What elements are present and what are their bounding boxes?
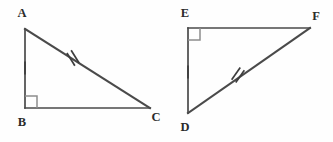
vertex-label-d: D: [180, 120, 189, 134]
vertex-label-b: B: [18, 115, 26, 129]
hypotenuse-ac: [25, 29, 150, 108]
triangle-edf: EDF: [180, 6, 320, 134]
vertex-label-c: C: [151, 110, 160, 124]
vertex-label-e: E: [181, 6, 189, 20]
hypotenuse-df: [188, 28, 310, 113]
right-angle-marker-e: [188, 28, 200, 40]
triangle-abc: ABC: [17, 6, 160, 129]
vertex-label-a: A: [17, 6, 26, 20]
figure-canvas: ABCEDF: [0, 0, 333, 142]
right-angle-marker-b: [25, 96, 37, 108]
geometry-figure: ABCEDF: [0, 0, 333, 142]
vertex-label-f: F: [312, 9, 320, 23]
